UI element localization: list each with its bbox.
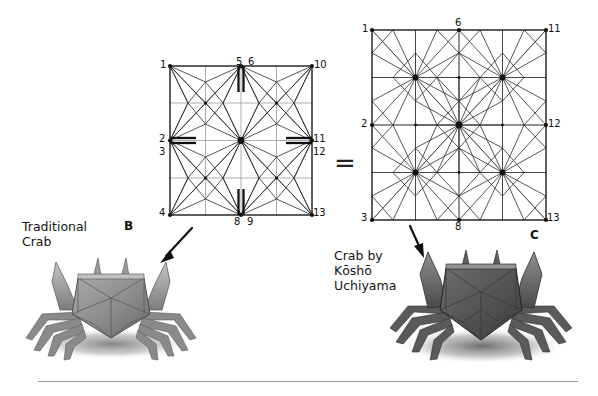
cp-c-label-2: 2 bbox=[361, 118, 367, 129]
cp-b-label-6: 6 bbox=[248, 56, 254, 67]
uchiyama-crab-crease-pattern bbox=[362, 22, 558, 232]
cp-b-label-4: 4 bbox=[159, 207, 165, 218]
cp-b-label-11: 11 bbox=[313, 133, 326, 144]
cp-b-label-2: 2 bbox=[159, 133, 165, 144]
page-divider-rule bbox=[38, 381, 578, 382]
cp-b-label-12: 12 bbox=[313, 146, 326, 157]
cp-c-label-1: 1 bbox=[362, 23, 368, 34]
cp-b-label-1: 1 bbox=[160, 59, 166, 70]
uchiyama-crab-photo bbox=[386, 248, 576, 374]
cp-b-label-8: 8 bbox=[234, 216, 240, 227]
traditional-crab-caption: Traditional Crab bbox=[22, 219, 132, 249]
cp-b-label-5: 5 bbox=[236, 56, 242, 67]
traditional-crab-photo bbox=[16, 252, 206, 372]
cp-c-label-11: 11 bbox=[548, 23, 561, 34]
cp-b-label-13: 13 bbox=[313, 207, 326, 218]
figure-page: 1 5 6 10 2 11 3 12 4 8 9 13 = bbox=[0, 0, 598, 396]
traditional-crab-crease-pattern bbox=[152, 50, 332, 230]
cp-b-label-3: 3 bbox=[159, 146, 165, 157]
cp-c-label-8: 8 bbox=[455, 221, 461, 232]
cp-b-label-10: 10 bbox=[314, 59, 327, 70]
equals-sign: = bbox=[334, 150, 356, 176]
cp-c-label-6: 6 bbox=[455, 17, 461, 28]
cp-c-label-13: 13 bbox=[547, 212, 560, 223]
cp-b-label-9: 9 bbox=[247, 216, 253, 227]
cp-c-label-3: 3 bbox=[361, 212, 367, 223]
cp-c-label-12: 12 bbox=[548, 118, 561, 129]
panel-letter-c: C bbox=[530, 228, 539, 242]
